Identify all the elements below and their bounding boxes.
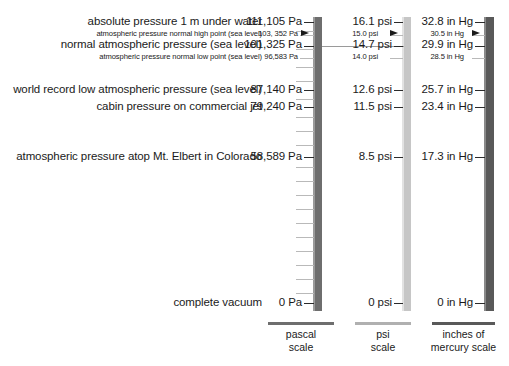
row-tick-psi-2 [394,46,403,47]
row-tick-pascal-4 [304,90,314,91]
psi-axis-caption-line1: psi [349,328,417,341]
row-tick-psi-7 [394,303,403,304]
row-value-inhg-1: 30.5 in Hg [404,30,464,38]
row-value-inhg-7: 0 in Hg [404,297,473,309]
row-arrow-inhg-1 [472,30,480,36]
row-value-psi-3: 14.0 psi [320,53,378,61]
row-value-pascal-5: 79,240 Pa [190,101,302,113]
psi-scale-bar [402,17,411,311]
row-tick-inhg-2 [475,46,485,47]
row-value-psi-5: 11.5 psi [320,101,392,113]
row-value-psi-6: 8.5 psi [320,151,392,163]
row-value-inhg-2: 29.9 in Hg [404,39,473,51]
pascal-scale-bar [313,17,322,311]
row-tick-inhg-3 [472,58,485,59]
pascal-axis-caption-line1: pascal [262,328,340,341]
pascal-axis-caption-line2: scale [262,341,340,354]
row-tick-psi-3 [390,58,403,59]
inhg-axis-caption-line2: mercury scale [424,341,503,354]
row-tick-inhg-7 [475,303,485,304]
inhg-scale-bar [484,17,494,311]
row-tick-pascal-3 [300,58,314,59]
row-value-pascal-3: 96,583 Pa [190,53,298,61]
row-value-pascal-7: 0 Pa [190,297,302,309]
inhg-axis-caption-line1: inches of [424,328,503,341]
row-value-pascal-0: 111,105 Pa [190,16,302,28]
row-tick-inhg-4 [475,90,485,91]
row-tick-pascal-5 [304,107,314,108]
row-value-pascal-4: 87,140 Pa [190,84,302,96]
row-tick-psi-0 [394,22,403,23]
row-value-psi-0: 16.1 psi [320,16,392,28]
inhg-axis-rule [432,322,495,325]
row-value-psi-7: 0 psi [320,297,392,309]
row-value-inhg-5: 23.4 in Hg [404,101,473,113]
row-value-psi-4: 12.6 psi [320,84,392,96]
row-tick-psi-6 [394,157,403,158]
row-tick-pascal-6 [304,157,314,158]
row-tick-pascal-0 [304,22,314,23]
pressure-scale-diagram: absolute pressure 1 m under water 111,10… [0,0,509,366]
row-value-inhg-6: 17.3 in Hg [404,151,473,163]
row-tick-pascal-2 [304,46,314,47]
row-arrow-pascal-1 [301,30,309,36]
psi-axis-rule [355,322,411,325]
row-arrow-psi-1 [390,30,398,36]
row-tick-psi-4 [394,90,403,91]
row-value-pascal-2: 101,325 Pa [190,39,302,51]
row-value-inhg-4: 25.7 in Hg [404,84,473,96]
row-value-psi-2: 14.7 psi [320,39,392,51]
row-tick-inhg-5 [475,107,485,108]
row-value-inhg-3: 28.5 in Hg [404,53,464,61]
pascal-axis-rule [268,322,334,325]
row-tick-inhg-0 [475,22,485,23]
psi-axis-caption-line2: scale [349,341,417,354]
row-tick-psi-5 [394,107,403,108]
row-value-pascal-1: 103, 352 Pa [190,30,298,38]
row-value-psi-1: 15.0 psi [320,30,378,38]
row-value-inhg-0: 32.8 in Hg [404,16,473,28]
row-value-pascal-6: 58,589 Pa [190,151,302,163]
row-tick-inhg-6 [475,157,485,158]
row-tick-pascal-7 [304,303,314,304]
